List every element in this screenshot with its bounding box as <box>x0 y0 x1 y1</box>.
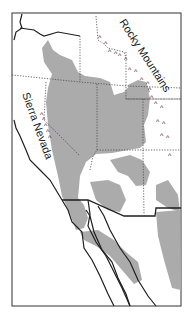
map-frame <box>12 13 181 306</box>
western-us-map: ^ ^ ^ ^ ^ ^ ^ ^ ^ ^ ^ ^ ^ ^ ^ ^ ^ ^ ^ ^ … <box>0 0 191 316</box>
